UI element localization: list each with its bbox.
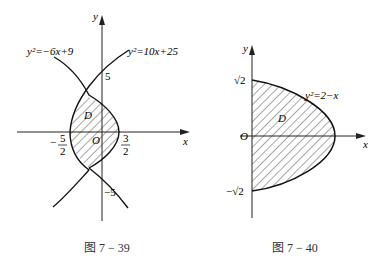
curve-right-label: y²=10x+25 — [127, 45, 178, 57]
curve-label: y²=2−x — [304, 89, 339, 101]
tick-x-3-2: 3 2 — [121, 132, 130, 157]
tick-y-sqrt2: √2 — [234, 74, 246, 86]
caption-7-40: 图 7 − 40 — [272, 241, 318, 255]
origin-label: O — [240, 130, 248, 142]
tick-x-neg-5-2: − 5 2 — [50, 132, 67, 157]
tick-y-5: 5 — [105, 70, 111, 82]
svg-text:3: 3 — [123, 132, 129, 144]
tick-y-neg-sqrt2: −√2 — [226, 185, 244, 197]
origin-label: O — [92, 134, 100, 146]
svg-text:2: 2 — [60, 145, 66, 157]
svg-text:−: − — [50, 136, 56, 148]
curve-left-label: y²=−6x+9 — [26, 45, 74, 57]
y-axis-arrow-icon — [99, 15, 105, 25]
y-axis-label: y — [242, 42, 248, 54]
figure-7-40: y x O D y²=2−x √2 −√2 图 7 − 40 — [226, 42, 368, 255]
svg-text:5: 5 — [60, 132, 66, 144]
region-d-label: D — [83, 109, 92, 121]
x-axis-label: x — [362, 138, 368, 150]
svg-text:2: 2 — [123, 145, 129, 157]
curve-one-tail — [53, 170, 89, 207]
tick-y-neg5: −5 — [104, 186, 116, 198]
region-d-label: D — [277, 112, 286, 124]
y-axis-arrow-icon — [249, 45, 255, 55]
caption-7-39: 图 7 − 39 — [84, 241, 130, 255]
figures-canvas: y x O D y²=−6x+9 y²=10x+25 5 −5 − 5 2 3 … — [0, 0, 381, 270]
x-axis-label: x — [182, 135, 188, 147]
y-axis-label: y — [92, 10, 98, 22]
figure-7-39: y x O D y²=−6x+9 y²=10x+25 5 −5 − 5 2 3 … — [17, 10, 190, 255]
